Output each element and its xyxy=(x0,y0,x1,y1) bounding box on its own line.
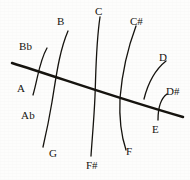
arc-group xyxy=(33,17,167,156)
diagram-canvas xyxy=(0,0,190,180)
note-label-ab: Ab xyxy=(21,110,35,121)
note-label-a: A xyxy=(17,83,25,94)
arc-csharp-f xyxy=(120,26,136,150)
note-label-fsharp: F# xyxy=(86,160,98,171)
note-label-c: C xyxy=(95,6,103,17)
note-label-f: F xyxy=(126,146,132,157)
note-label-e: E xyxy=(152,124,159,135)
note-label-g: G xyxy=(49,148,57,159)
main-diagonal-line xyxy=(12,63,183,117)
arc-dsharp-e xyxy=(158,94,167,120)
arc-d xyxy=(144,61,166,99)
note-label-d: D xyxy=(159,52,167,63)
note-label-dsharp: D# xyxy=(166,86,179,97)
note-label-bb: Bb xyxy=(19,41,32,52)
note-lattice-diagram: Bb B C C# D D# A Ab G F# F E xyxy=(0,0,190,180)
note-label-csharp: C# xyxy=(130,16,143,27)
note-label-b: B xyxy=(57,16,65,27)
arc-c-fsharp xyxy=(91,17,100,156)
